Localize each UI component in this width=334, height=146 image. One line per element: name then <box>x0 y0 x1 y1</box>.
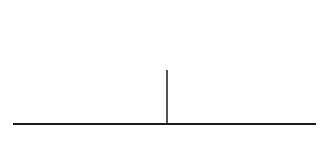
signal-detection-diagram <box>0 0 334 146</box>
